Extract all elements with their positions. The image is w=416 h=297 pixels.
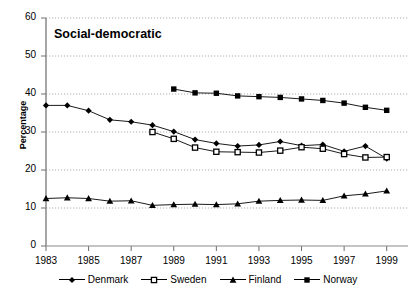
data-point-filled-square bbox=[192, 90, 197, 95]
data-point-filled-diamond bbox=[149, 122, 155, 128]
data-point-open-square bbox=[256, 150, 261, 155]
x-tickmarks bbox=[46, 246, 387, 251]
legend-marker-filled-diamond-icon bbox=[59, 275, 85, 285]
data-point-open-square bbox=[235, 150, 240, 155]
data-point-filled-square bbox=[214, 91, 219, 96]
data-point-filled-diamond bbox=[171, 129, 177, 135]
data-point-filled-square bbox=[341, 100, 346, 105]
data-point-open-square bbox=[171, 136, 176, 141]
data-point-open-square bbox=[150, 129, 155, 134]
data-point-filled-square bbox=[171, 86, 176, 91]
legend-marker-filled-triangle-icon bbox=[220, 275, 246, 285]
data-point-filled-diamond bbox=[128, 119, 134, 125]
legend-item-finland[interactable]: Finland bbox=[220, 274, 282, 285]
x-tick-label: 1987 bbox=[111, 255, 151, 266]
data-point-filled-square bbox=[256, 94, 261, 99]
data-point-filled-square bbox=[235, 93, 240, 98]
data-point-filled-square bbox=[363, 105, 368, 110]
data-point-open-square bbox=[192, 145, 197, 150]
data-point-filled-diamond bbox=[192, 137, 198, 143]
data-point-filled-diamond bbox=[277, 138, 283, 144]
data-point-open-square bbox=[214, 149, 219, 154]
data-point-filled-triangle bbox=[229, 276, 236, 282]
legend-label: Norway bbox=[323, 274, 357, 285]
data-point-filled-square bbox=[278, 95, 283, 100]
legend-item-norway[interactable]: Norway bbox=[294, 274, 357, 285]
data-point-filled-diamond bbox=[64, 102, 70, 108]
data-point-filled-diamond bbox=[213, 140, 219, 146]
legend-label: Denmark bbox=[88, 274, 129, 285]
y-tickmarks bbox=[41, 18, 46, 246]
x-tick-label: 1997 bbox=[324, 255, 364, 266]
x-tick-label: 1991 bbox=[196, 255, 236, 266]
y-tick-label: 10 bbox=[12, 201, 36, 212]
legend-label: Finland bbox=[249, 274, 282, 285]
data-point-open-square bbox=[278, 148, 283, 153]
legend-marker-open-square-icon bbox=[141, 275, 167, 285]
data-point-filled-square bbox=[320, 98, 325, 103]
x-tick-label: 1985 bbox=[69, 255, 109, 266]
y-tick-label: 50 bbox=[12, 49, 36, 60]
x-tick-label: 1993 bbox=[239, 255, 279, 266]
x-tick-label: 1999 bbox=[367, 255, 407, 266]
x-tick-label: 1983 bbox=[26, 255, 66, 266]
chart-canvas bbox=[0, 0, 416, 297]
y-tick-label: 60 bbox=[12, 11, 36, 22]
chart-title: Social-democratic bbox=[54, 27, 162, 41]
data-series-group bbox=[43, 86, 391, 208]
data-point-open-square bbox=[363, 155, 368, 160]
data-point-filled-diamond bbox=[69, 276, 75, 282]
x-tick-label: 1989 bbox=[154, 255, 194, 266]
legend-item-sweden[interactable]: Sweden bbox=[141, 274, 206, 285]
series-norway bbox=[171, 86, 389, 113]
x-tick-label: 1995 bbox=[282, 255, 322, 266]
y-tick-label: 40 bbox=[12, 87, 36, 98]
data-point-filled-triangle bbox=[383, 188, 390, 194]
data-point-open-square bbox=[384, 154, 389, 159]
data-point-filled-diamond bbox=[85, 108, 91, 114]
y-tick-label: 30 bbox=[12, 125, 36, 136]
data-point-filled-square bbox=[299, 96, 304, 101]
y-tick-label: 20 bbox=[12, 163, 36, 174]
series-sweden bbox=[150, 129, 389, 160]
chart-legend: DenmarkSwedenFinlandNorway bbox=[0, 274, 416, 285]
data-point-open-square bbox=[152, 277, 157, 282]
data-point-filled-diamond bbox=[235, 143, 241, 149]
data-point-open-square bbox=[299, 145, 304, 150]
data-point-open-square bbox=[342, 151, 347, 156]
legend-marker-filled-square-icon bbox=[294, 275, 320, 285]
chart-figure: Social-democratic Percentage 01020304050… bbox=[0, 0, 416, 297]
series-finland bbox=[43, 188, 391, 208]
gridlines bbox=[46, 18, 408, 208]
data-point-filled-square bbox=[305, 277, 310, 282]
series-line-sweden bbox=[152, 132, 386, 157]
data-point-filled-triangle bbox=[64, 194, 71, 200]
data-point-filled-diamond bbox=[256, 142, 262, 148]
data-point-filled-diamond bbox=[362, 143, 368, 149]
data-point-filled-diamond bbox=[107, 117, 113, 123]
data-point-filled-square bbox=[384, 108, 389, 113]
data-point-open-square bbox=[320, 146, 325, 151]
legend-label: Sweden bbox=[170, 274, 206, 285]
data-point-filled-diamond bbox=[43, 102, 49, 108]
legend-item-denmark[interactable]: Denmark bbox=[59, 274, 129, 285]
y-tick-label: 0 bbox=[12, 239, 36, 250]
